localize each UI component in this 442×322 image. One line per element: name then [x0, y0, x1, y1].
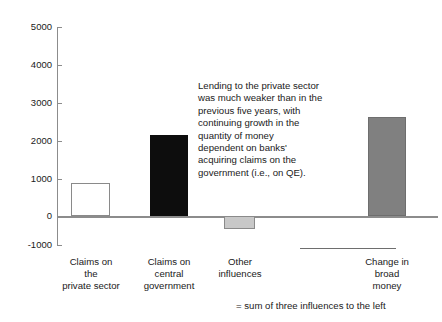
x-label-4-line1: Change in: [347, 256, 427, 268]
y-tick-label-3000-wrap: 3000: [0, 98, 52, 108]
y-tick-label-0-wrap: 0: [0, 211, 52, 221]
annotation-line-2: was much weaker than in the: [198, 92, 358, 104]
annotation-line-8: government (i.e., on QE).: [198, 167, 358, 179]
x-label-2-line1: Claims on: [128, 256, 210, 268]
chart-annotation: Lending to the private sector was much w…: [198, 80, 358, 179]
y-tick-label-minus1000: -1000: [4, 240, 52, 250]
x-label-4-line3: money: [347, 280, 427, 292]
bar-chart: 5000 4000 3000 2000 1000 0 -1000 Lending…: [0, 0, 442, 322]
x-label-1-line3: private sector: [50, 280, 132, 292]
x-label-claims-central-government: Claims on central government: [128, 256, 210, 292]
annotation-line-3: previous five years, with: [198, 105, 358, 117]
y-tick-label-minus1000-wrap: -1000: [0, 240, 52, 250]
bar-claims-central-government: [150, 135, 188, 216]
bar-other-influences: [224, 216, 255, 229]
y-tick-3000: [57, 103, 62, 104]
y-tick-1000: [57, 179, 62, 180]
y-tick-label-2000-wrap: 2000: [0, 136, 52, 146]
y-tick-label-5000-wrap: 5000: [0, 22, 52, 32]
annotation-line-7: acquiring claims on the: [198, 154, 358, 166]
y-tick-label-3000: 3000: [4, 98, 52, 108]
bar-change-in-broad-money: [368, 117, 406, 216]
y-tick-label-1000: 1000: [4, 174, 52, 184]
x-label-change-in-broad-money: Change in broad money: [347, 256, 427, 292]
x-label-claims-private-sector: Claims on the private sector: [50, 256, 132, 292]
y-tick-label-4000-wrap: 4000: [0, 60, 52, 70]
y-tick-label-0: 0: [4, 211, 52, 221]
annotation-line-6: dependent on banks': [198, 142, 358, 154]
x-label-2-line3: government: [128, 280, 210, 292]
annotation-line-4: continuing growth in the: [198, 117, 358, 129]
chart-footnote: = sum of three influences to the left: [236, 300, 436, 312]
sum-separator-rule: [300, 248, 396, 249]
x-label-2-line2: central: [128, 268, 210, 280]
y-tick-4000: [57, 65, 62, 66]
bar-claims-private-sector: [71, 183, 110, 216]
annotation-line-5: quantity of money: [198, 130, 358, 142]
y-tick-minus1000: [57, 245, 62, 246]
x-label-4-line2: broad: [347, 268, 427, 280]
x-label-1-line2: the: [50, 268, 132, 280]
x-label-1-line1: Claims on: [50, 256, 132, 268]
y-axis-line: [57, 27, 58, 245]
x-label-3-line2: influences: [200, 268, 280, 280]
y-tick-label-5000: 5000: [4, 22, 52, 32]
y-tick-label-1000-wrap: 1000: [0, 174, 52, 184]
y-tick-5000: [57, 27, 62, 28]
y-tick-label-4000: 4000: [4, 60, 52, 70]
y-tick-2000: [57, 141, 62, 142]
annotation-line-1: Lending to the private sector: [198, 80, 358, 92]
y-tick-label-2000: 2000: [4, 136, 52, 146]
x-label-other-influences: Other influences: [200, 256, 280, 280]
x-label-3-line1: Other: [200, 256, 280, 268]
